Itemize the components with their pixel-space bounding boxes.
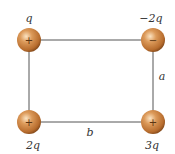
charge-diagram: + q − −2q + 2q + 3q a b — [0, 0, 175, 154]
minus-icon: − — [149, 35, 157, 46]
charge-label-top-left: q — [25, 12, 32, 25]
charge-top-left: + q — [17, 12, 41, 52]
charge-label-bottom-left: 2q — [25, 139, 40, 152]
charge-bottom-right: + 3q — [141, 110, 165, 152]
side-label-b: b — [86, 126, 93, 139]
plus-icon: + — [25, 117, 33, 128]
charge-label-top-right: −2q — [139, 12, 162, 25]
charge-label-bottom-right: 3q — [145, 139, 159, 152]
side-label-a: a — [159, 70, 166, 83]
charge-top-right: − −2q — [139, 12, 165, 52]
charge-bottom-left: + 2q — [17, 110, 41, 152]
plus-icon: + — [149, 117, 157, 128]
plus-icon: + — [25, 35, 33, 46]
